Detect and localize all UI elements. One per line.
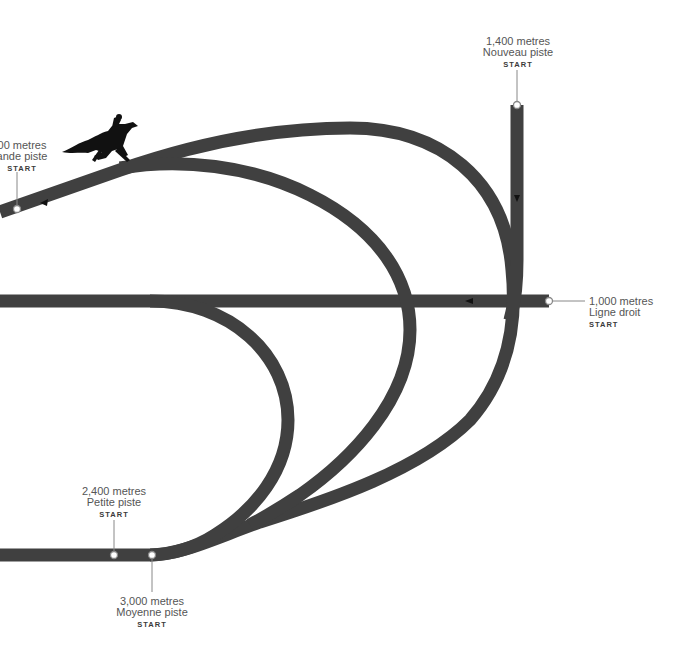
- nouveau-piste-track: [510, 105, 517, 320]
- start-tag: START: [589, 320, 653, 329]
- horse-and-jockey-icon: [62, 114, 138, 162]
- track-name: Moyenne piste: [106, 607, 198, 618]
- track-name: ande piste: [0, 151, 48, 162]
- track-name: Petite piste: [70, 497, 158, 508]
- start-tag: START: [472, 60, 564, 69]
- track-name: Nouveau piste: [472, 47, 564, 58]
- start-tag: START: [0, 164, 48, 173]
- start-marker-petite: [111, 552, 118, 559]
- track-name: Ligne droit: [589, 307, 653, 318]
- start-marker-moyenne: [149, 552, 156, 559]
- start-tag: START: [70, 510, 158, 519]
- start-label-nouveau-piste: 1,400 metres Nouveau piste START: [472, 36, 564, 69]
- start-marker-ligne: [546, 298, 553, 305]
- start-marker-grande: [14, 206, 21, 213]
- direction-arrow-icon: [40, 195, 520, 304]
- start-label-petite-piste: 2,400 metres Petite piste START: [70, 486, 158, 519]
- start-tag: START: [106, 620, 198, 629]
- start-label-moyenne-piste: 3,000 metres Moyenne piste START: [106, 596, 198, 629]
- racecourse-diagram: [0, 0, 691, 660]
- start-marker-nouveau: [514, 102, 521, 109]
- start-label-grande-piste: 00 metres ande piste START: [0, 140, 48, 173]
- start-label-ligne-droit: 1,000 metres Ligne droit START: [589, 296, 653, 329]
